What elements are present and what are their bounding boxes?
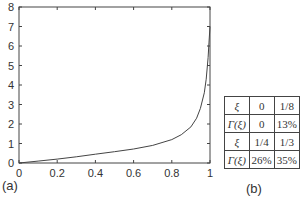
y-tick-label: 0 (8, 157, 14, 169)
table-cell: 1/3 (274, 133, 299, 151)
table-cell: 1/4 (249, 133, 274, 151)
y-tick-label: 5 (8, 60, 14, 72)
y-tick-label: 3 (8, 99, 14, 111)
table-cell: ξ (225, 97, 250, 115)
x-tick-label: 0.2 (50, 167, 65, 179)
plot-frame (19, 7, 210, 163)
table-cell: 0 (249, 115, 274, 133)
line-chart: 00.20.40.60.81012345678 (0, 0, 220, 185)
x-tick-label: 0.6 (126, 167, 141, 179)
y-tick-label: 2 (8, 118, 14, 130)
x-tick-label: 1 (207, 167, 213, 179)
table-cell: 0 (249, 97, 274, 115)
x-tick-label: 0.8 (164, 167, 179, 179)
y-tick-label: 1 (8, 138, 14, 150)
x-tick-label: 0.4 (88, 167, 103, 179)
table-cell: 13% (274, 115, 299, 133)
gamma-table: ξ 0 1/8 Γ(ξ) 0 13% ξ 1/4 1/3 Γ(ξ) 26% 35… (224, 96, 300, 169)
table-cell: Γ(ξ) (225, 151, 250, 169)
table-row: Γ(ξ) 26% 35% (225, 151, 300, 169)
table-row: ξ 0 1/8 (225, 97, 300, 115)
y-tick-label: 7 (8, 21, 14, 33)
table-cell: 26% (249, 151, 274, 169)
y-tick-label: 8 (8, 1, 14, 13)
panel-label-b: (b) (246, 181, 262, 196)
table-row: ξ 1/4 1/3 (225, 133, 300, 151)
panel-label-a: (a) (2, 178, 18, 193)
table-cell: 35% (274, 151, 299, 169)
y-tick-label: 6 (8, 40, 14, 52)
table-cell: Γ(ξ) (225, 115, 250, 133)
table-row: Γ(ξ) 0 13% (225, 115, 300, 133)
table-cell: ξ (225, 133, 250, 151)
data-curve (19, 27, 210, 164)
y-tick-label: 4 (8, 79, 14, 91)
table-cell: 1/8 (274, 97, 299, 115)
